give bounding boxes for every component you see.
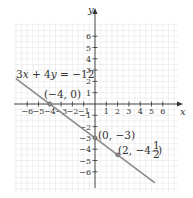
- svg-text:−5: −5: [79, 157, 91, 166]
- svg-text:1: 1: [104, 107, 109, 116]
- point-label-x-intercept: (−4, 0): [44, 88, 81, 100]
- svg-text:1: 1: [86, 89, 91, 98]
- svg-text:2: 2: [115, 107, 120, 116]
- svg-text:5: 5: [86, 44, 91, 53]
- svg-text:−1: −1: [79, 111, 91, 120]
- svg-text:3: 3: [126, 107, 131, 116]
- svg-text:5: 5: [149, 107, 154, 116]
- x-axis-label: x: [180, 106, 186, 117]
- svg-text:−4: −4: [79, 145, 91, 154]
- coordinate-plane: −6−5−4−3−2−1123456−6−5−4−3−2−1123456 y x…: [0, 0, 193, 198]
- svg-text:4: 4: [86, 55, 91, 64]
- equation-label: 3x + 4y = −12: [16, 68, 94, 80]
- svg-text:−6: −6: [79, 168, 91, 177]
- svg-text:−5: −5: [33, 107, 45, 116]
- svg-text:6: 6: [160, 107, 165, 116]
- data-point: [93, 136, 97, 140]
- svg-text:−4: −4: [44, 107, 56, 116]
- data-point: [48, 102, 52, 106]
- svg-text:(2, −4: (2, −4: [118, 144, 151, 156]
- point-label-y-intercept: (0, −3): [98, 129, 135, 141]
- svg-text:): ): [158, 144, 162, 156]
- svg-text:−3: −3: [79, 134, 91, 143]
- svg-text:−6: −6: [21, 107, 33, 116]
- svg-text:6: 6: [86, 32, 91, 41]
- y-axis-label: y: [87, 4, 94, 15]
- svg-text:4: 4: [138, 107, 143, 116]
- svg-text:−2: −2: [67, 107, 79, 116]
- axes: [14, 8, 183, 188]
